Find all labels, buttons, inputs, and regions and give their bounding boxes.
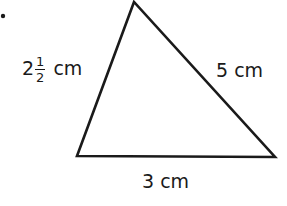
left-side-label: 212 cm	[22, 55, 82, 84]
bullet-dot	[1, 14, 5, 18]
left-side-fraction: 12	[35, 55, 45, 84]
fraction-denominator: 2	[36, 70, 44, 84]
bottom-side-label: 3 cm	[142, 172, 189, 191]
left-side-whole: 2	[22, 57, 34, 79]
left-side-unit: cm	[53, 57, 82, 79]
right-side-label: 5 cm	[216, 61, 263, 80]
fraction-numerator: 1	[35, 55, 45, 70]
